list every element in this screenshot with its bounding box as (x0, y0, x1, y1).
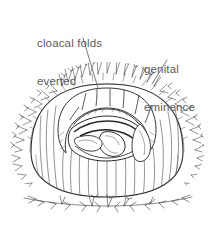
label-genital-eminence-line1: genital (144, 63, 195, 76)
label-cloacal-folds-everted: cloacal folds everted (37, 12, 102, 112)
ground-line (24, 194, 192, 212)
label-cloacal-folds-line1: cloacal folds (37, 37, 102, 50)
label-genital-eminence: genital eminence (144, 38, 195, 138)
label-genital-eminence-line2: eminence (144, 101, 195, 114)
figure-root: cloacal folds everted genital eminence (0, 0, 214, 233)
label-cloacal-folds-line2: everted (37, 75, 102, 88)
